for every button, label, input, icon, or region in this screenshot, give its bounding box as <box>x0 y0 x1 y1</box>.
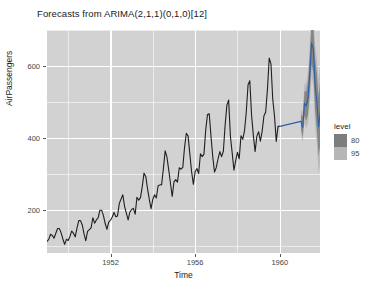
chart-title: Forecasts from ARIMA(2,1,1)(0,1,0)[12] <box>37 8 207 19</box>
y-tick-label: 200 <box>18 206 40 215</box>
legend-swatch-80 <box>334 134 347 147</box>
x-tick-label: 1956 <box>177 258 213 267</box>
legend-item[interactable]: 80 <box>334 134 359 147</box>
x-tick-label: 1952 <box>93 258 129 267</box>
x-tick-mark <box>280 254 281 257</box>
y-tick-mark <box>43 66 46 67</box>
x-tick-mark <box>111 254 112 257</box>
y-tick-label: 600 <box>18 62 40 71</box>
observed-line <box>47 58 280 244</box>
legend-label: 80 <box>351 136 359 145</box>
legend-label: 95 <box>351 149 359 158</box>
y-tick-mark <box>43 210 46 211</box>
x-axis-title: Time <box>47 270 320 280</box>
y-tick-label: 400 <box>18 134 40 143</box>
plot-panel <box>47 30 320 253</box>
x-tick-mark <box>195 254 196 257</box>
series-layer <box>47 30 320 253</box>
legend-title: level <box>334 122 359 131</box>
x-tick-label: 1960 <box>262 258 298 267</box>
legend-item[interactable]: 95 <box>334 147 359 160</box>
y-axis-title: AirPassengers <box>4 51 14 106</box>
chart-root: Forecasts from ARIMA(2,1,1)(0,1,0)[12] 2… <box>0 0 382 290</box>
y-tick-mark <box>43 138 46 139</box>
legend-swatch-95 <box>334 147 347 160</box>
legend: level 8095 <box>334 122 359 160</box>
